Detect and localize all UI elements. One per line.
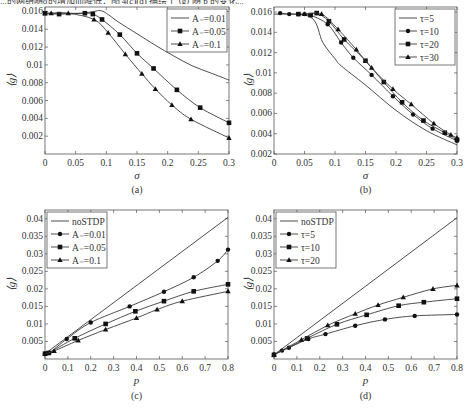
y-tick-label: 0.03: [255, 249, 272, 259]
x-tick-label: 0: [272, 158, 277, 168]
y-tick-label: 0.002: [251, 149, 273, 159]
y-tick-label: 0.025: [251, 266, 273, 276]
x-tick-label: 0.1: [100, 158, 112, 168]
panel-label: (b): [360, 184, 372, 196]
x-tick-label: 0.5: [153, 363, 165, 373]
x-tick-label: 0.1: [62, 363, 74, 373]
x-tick-label: 0.3: [223, 158, 235, 168]
legend-entry: A₋=0.1: [192, 40, 221, 50]
legend-entry: A₋=0.01: [72, 230, 106, 240]
legend-entry: τ=10: [301, 243, 320, 253]
chart-panel-d: 00.10.20.30.40.50.60.70.80.0050.010.0150…: [242, 210, 463, 402]
y-tick-label: 0.008: [22, 78, 44, 88]
legend: τ=5τ=10τ=20τ=30: [395, 9, 455, 65]
legend: A₋=0.01A₋=0.05A₋=0.1: [167, 9, 227, 52]
y-tick-label: 0.01: [26, 319, 43, 329]
panel-label: (c): [131, 390, 142, 402]
y-tick-label: 0.015: [251, 301, 273, 311]
panel-label: (a): [131, 184, 142, 196]
data-series: [272, 312, 459, 357]
legend-entry: τ=20: [420, 40, 439, 50]
y-tick-label: 0.04: [26, 214, 43, 224]
y-axis-label: ⟨g⟩: [5, 277, 17, 292]
x-axis-label: σ: [134, 169, 140, 181]
x-tick-label: 0.2: [390, 158, 402, 168]
x-tick-label: 0.1: [291, 363, 303, 373]
x-tick-label: 0: [43, 158, 48, 168]
y-tick-label: 0.02: [26, 284, 43, 294]
y-tick-label: 0.015: [22, 301, 44, 311]
y-tick-label: 0.012: [251, 48, 273, 58]
x-tick-label: 0.2: [162, 158, 174, 168]
y-axis-label: ⟨g⟩: [242, 73, 254, 88]
x-tick-label: 0.25: [190, 158, 207, 168]
legend-entry: τ=5: [301, 230, 315, 240]
legend: noSTDPτ=5τ=10τ=20: [276, 212, 336, 268]
x-tick-label: 0.7: [199, 363, 211, 373]
x-tick-label: 0.05: [296, 158, 313, 168]
x-tick-label: 0.4: [131, 363, 143, 373]
x-tick-label: 0.7: [428, 363, 440, 373]
chart-panel-b: 00.050.10.150.20.250.30.0020.0040.0060.0…: [242, 7, 463, 196]
y-tick-label: 0.01: [255, 68, 272, 78]
y-tick-label: 0.002: [22, 131, 44, 141]
y-tick-label: 0.01: [26, 60, 43, 70]
legend-entry: noSTDP: [301, 217, 334, 227]
x-tick-label: 0.6: [405, 363, 417, 373]
y-tick-label: 0.025: [22, 266, 44, 276]
x-tick-label: 0.4: [360, 363, 372, 373]
x-tick-label: 0.3: [108, 363, 120, 373]
y-tick-label: 0.004: [251, 129, 273, 139]
x-tick-label: 0.8: [451, 363, 463, 373]
x-tick-label: 0.2: [314, 363, 326, 373]
y-tick-label: 0.014: [251, 27, 273, 37]
chart-panel-a: 00.050.10.150.20.250.30.0020.0040.0060.0…: [5, 6, 235, 196]
legend-entry: A₋=0.05: [192, 27, 226, 37]
legend-entry: τ=5: [420, 14, 434, 24]
y-tick-label: 0.004: [22, 113, 44, 123]
legend-entry: noSTDP: [72, 217, 105, 227]
y-tick-label: 0.012: [22, 42, 44, 52]
y-tick-label: 0.014: [22, 24, 44, 34]
x-tick-label: 0: [43, 363, 48, 373]
x-tick-label: 0.25: [418, 158, 435, 168]
legend-entry: τ=10: [420, 27, 439, 37]
y-axis-label: ⟨g⟩: [242, 277, 254, 292]
y-tick-label: 0.006: [22, 96, 44, 106]
y-tick-label: 0.005: [22, 336, 44, 346]
x-tick-label: 0.05: [67, 158, 84, 168]
y-tick-label: 0.035: [251, 231, 273, 241]
legend: noSTDPA₋=0.01A₋=0.05A₋=0.1: [47, 212, 107, 268]
data-series: [272, 296, 460, 357]
y-tick-label: 0.03: [26, 249, 43, 259]
y-tick-label: 0.005: [251, 336, 273, 346]
x-tick-label: 0: [272, 363, 277, 373]
x-tick-label: 0.1: [329, 158, 341, 168]
x-tick-label: 0.3: [337, 363, 349, 373]
x-tick-label: 0.8: [222, 363, 234, 373]
y-tick-label: 0.016: [22, 6, 44, 16]
y-tick-label: 0.01: [255, 319, 272, 329]
x-tick-label: 0.3: [451, 158, 463, 168]
legend-entry: A₋=0.1: [72, 256, 101, 266]
legend-entry: A₋=0.01: [192, 14, 226, 24]
legend-entry: τ=20: [301, 256, 320, 266]
chart-panel-c: 00.10.20.30.40.50.60.70.80.0050.010.0150…: [5, 210, 234, 402]
y-tick-label: 0.006: [251, 108, 273, 118]
panel-label: (d): [360, 390, 372, 402]
figure-4-panels: 00.050.10.150.20.250.30.0020.0040.0060.0…: [0, 0, 471, 411]
y-axis-label: ⟨g⟩: [5, 73, 17, 88]
x-tick-label: 0.5: [382, 363, 394, 373]
x-tick-label: 0.6: [176, 363, 188, 373]
data-series: [42, 289, 230, 356]
y-tick-label: 0.008: [251, 88, 273, 98]
y-tick-label: 0.02: [255, 284, 272, 294]
x-tick-label: 0.15: [129, 158, 146, 168]
x-tick-label: 0.15: [357, 158, 374, 168]
x-axis-label: p: [133, 374, 140, 386]
y-tick-label: 0.04: [255, 214, 272, 224]
y-tick-label: 0.035: [22, 231, 44, 241]
x-axis-label: p: [362, 374, 369, 386]
legend-entry: τ=30: [420, 53, 439, 63]
legend-entry: A₋=0.05: [72, 243, 106, 253]
